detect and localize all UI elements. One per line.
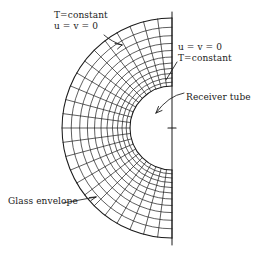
label-receiver-tube: Receiver tube (186, 92, 251, 103)
label-outer-boundary-conditions: T=constant u = v = 0 (54, 10, 108, 32)
label-inner-boundary-conditions: u = v = 0 T=constant (178, 42, 232, 64)
symmetry-axis (168, 12, 176, 245)
mesh-diagram-svg (0, 0, 255, 253)
receiver-tube-boundary (130, 86, 172, 170)
label-outer-bc-velocity: u = v = 0 (54, 21, 108, 32)
mesh-grid (62, 18, 172, 238)
label-inner-bc-velocity: u = v = 0 (178, 42, 232, 53)
mesh-figure: T=constant u = v = 0 u = v = 0 T=constan… (0, 0, 255, 253)
label-glass-envelope: Glass envelope (8, 196, 78, 207)
label-outer-bc-temperature: T=constant (54, 10, 108, 21)
label-inner-bc-temperature: T=constant (178, 53, 232, 64)
